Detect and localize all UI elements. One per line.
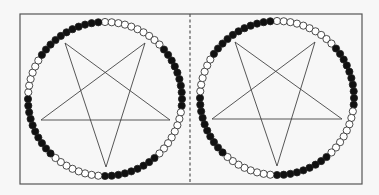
bead-filled [348, 74, 355, 81]
bead-filled [95, 19, 102, 26]
bead-filled [196, 94, 203, 101]
bead-ring-pentagram-figure [0, 0, 379, 195]
bead-empty [197, 88, 204, 95]
bead-filled [260, 19, 267, 26]
bead-empty [280, 18, 287, 25]
bead-filled [115, 171, 122, 178]
bead-filled [26, 109, 33, 116]
bead-empty [26, 82, 33, 89]
bead-empty [177, 109, 184, 116]
bead-filled [293, 169, 300, 176]
bead-filled [267, 18, 274, 25]
bead-filled [350, 101, 357, 108]
bead-filled [287, 170, 294, 177]
bead-filled [280, 171, 287, 178]
bead-empty [287, 19, 294, 26]
bead-filled [176, 75, 183, 82]
bead-filled [178, 95, 185, 102]
bead-filled [253, 20, 260, 27]
bead-filled [350, 94, 357, 101]
bead-empty [267, 171, 274, 178]
bead-filled [349, 81, 356, 88]
bead-filled [197, 101, 204, 108]
bead-filled [27, 115, 34, 122]
bead-ring-right [196, 17, 357, 178]
bead-filled [88, 20, 95, 27]
figure-canvas [0, 0, 379, 195]
bead-filled [177, 82, 184, 89]
bead-filled [121, 170, 128, 177]
figure-frame [20, 14, 362, 184]
bead-empty [88, 171, 95, 178]
bead-empty [108, 19, 115, 26]
bead-filled [101, 172, 108, 179]
bead-empty [349, 108, 356, 115]
right-panel [196, 17, 357, 178]
bead-filled [178, 102, 185, 109]
bead-empty [115, 20, 122, 27]
bead-filled [178, 89, 185, 96]
pentagram-right [212, 42, 342, 166]
bead-filled [108, 172, 115, 179]
pentagram-left [41, 43, 170, 167]
bead-empty [101, 18, 108, 25]
bead-filled [198, 108, 205, 115]
bead-filled [25, 102, 32, 109]
bead-filled [273, 171, 280, 178]
bead-empty [95, 172, 102, 179]
bead-filled [24, 95, 31, 102]
bead-empty [273, 17, 280, 24]
bead-ring-left [24, 18, 185, 179]
bead-filled [81, 21, 88, 28]
bead-filled [199, 114, 206, 121]
bead-empty [198, 81, 205, 88]
left-panel [24, 18, 185, 179]
bead-filled [350, 88, 357, 95]
bead-empty [260, 170, 267, 177]
bead-empty [25, 89, 32, 96]
